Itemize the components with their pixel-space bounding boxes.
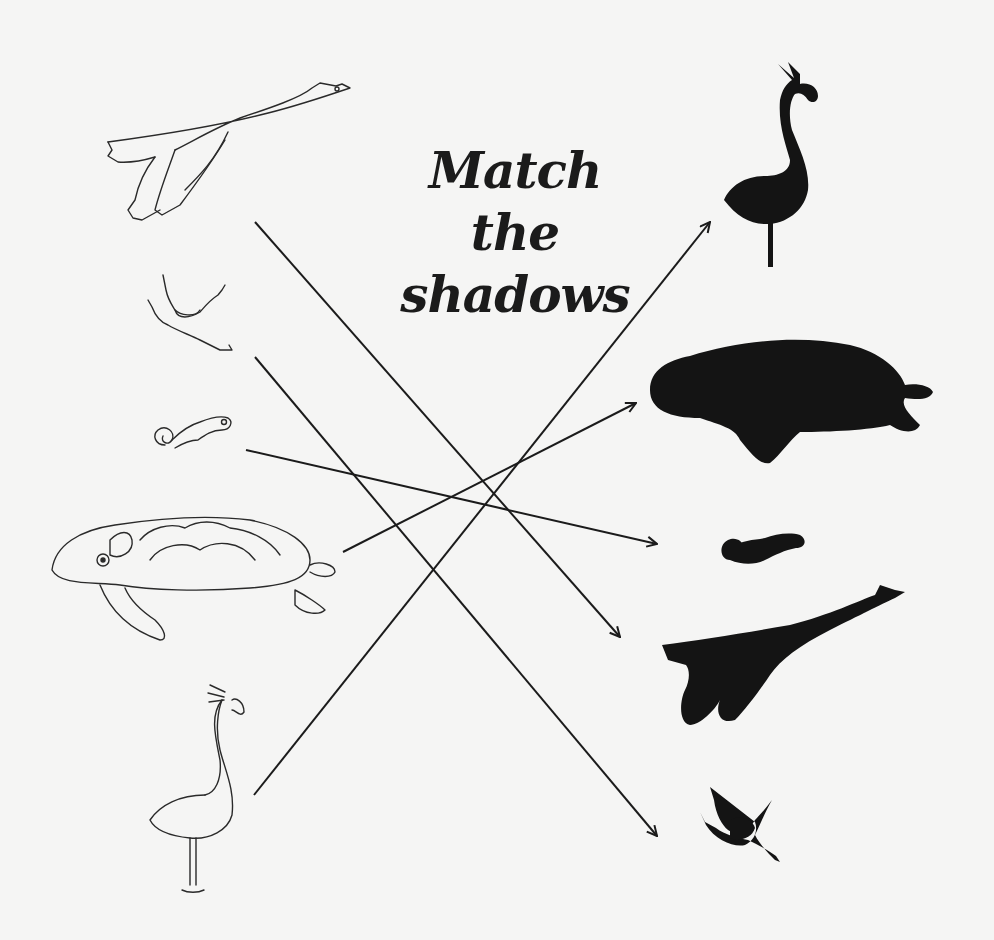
chameleon-outline-icon[interactable]: [155, 417, 231, 448]
chameleon-shadow-icon[interactable]: [721, 534, 804, 564]
frog-shadow-icon[interactable]: [700, 787, 780, 862]
match-line-frog[interactable]: [255, 357, 657, 836]
swan-shadow-icon[interactable]: [662, 585, 905, 725]
flamingo-shadow-icon[interactable]: [724, 62, 818, 267]
swan-outline-icon[interactable]: [108, 83, 350, 220]
match-line-flamingo[interactable]: [254, 222, 710, 795]
frog-outline-icon[interactable]: [148, 275, 232, 350]
worksheet: Match the shadows: [0, 0, 994, 940]
turtle-outline-icon[interactable]: [52, 518, 335, 640]
flamingo-outline-icon[interactable]: [150, 685, 244, 892]
drawing-canvas: [0, 0, 994, 940]
turtle-shadow-icon[interactable]: [650, 340, 933, 463]
